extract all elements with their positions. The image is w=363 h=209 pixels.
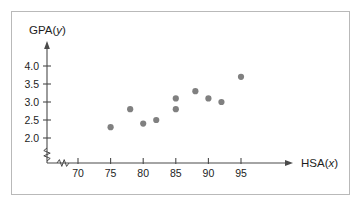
data-point bbox=[192, 88, 198, 94]
data-point bbox=[238, 74, 244, 80]
x-axis-arrowhead bbox=[285, 160, 293, 166]
x-axis-tick-label: 75 bbox=[105, 167, 117, 179]
x-axis-tick-label: 90 bbox=[203, 167, 215, 179]
x-axis-title-suffix: ) bbox=[334, 157, 338, 169]
data-point bbox=[153, 117, 159, 123]
data-point bbox=[218, 99, 224, 105]
x-axis-group: 707580859095 bbox=[47, 158, 293, 179]
chart-canvas: 2.02.53.03.54.0 707580859095 GPA(y) HSA(… bbox=[0, 0, 363, 209]
scatter-plot-figure: 2.02.53.03.54.0 707580859095 GPA(y) HSA(… bbox=[0, 0, 363, 209]
data-point bbox=[173, 106, 179, 112]
y-axis-tick-labels: 2.02.53.03.54.0 bbox=[24, 60, 39, 144]
y-axis-title-suffix: ) bbox=[62, 24, 66, 36]
y-axis-title-prefix: GPA( bbox=[29, 24, 56, 36]
y-axis-group: 2.02.53.03.54.0 bbox=[24, 41, 51, 163]
x-axis-title-prefix: HSA( bbox=[301, 157, 329, 169]
data-point bbox=[127, 106, 133, 112]
x-axis-tick-label: 85 bbox=[170, 167, 182, 179]
y-axis-tick-label: 2.0 bbox=[24, 132, 39, 144]
y-axis-arrowhead bbox=[44, 41, 50, 49]
x-axis-tick-labels: 707580859095 bbox=[72, 167, 247, 179]
data-point bbox=[205, 95, 211, 101]
data-point bbox=[140, 121, 146, 127]
data-point bbox=[173, 95, 179, 101]
y-axis-tick-label: 4.0 bbox=[24, 60, 39, 72]
x-axis-tick-label: 70 bbox=[72, 167, 84, 179]
data-point bbox=[108, 124, 114, 130]
y-axis-tick-label: 3.0 bbox=[24, 96, 39, 108]
x-axis-title: HSA(x) bbox=[301, 157, 338, 169]
y-axis-tick-label: 3.5 bbox=[24, 78, 39, 90]
y-axis-tick-label: 2.5 bbox=[24, 114, 39, 126]
x-axis-tick-label: 80 bbox=[137, 167, 149, 179]
data-points-group bbox=[108, 74, 245, 131]
y-axis-title: GPA(y) bbox=[29, 24, 66, 36]
x-axis-tick-label: 95 bbox=[235, 167, 247, 179]
